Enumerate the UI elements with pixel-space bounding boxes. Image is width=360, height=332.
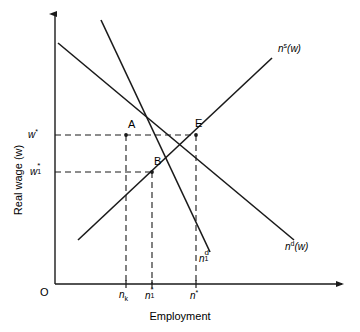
y-tick-label-w-1-star: w*1 [30, 165, 42, 177]
curve-labor-supply [78, 58, 272, 240]
y-tick-sup-w-star: * [35, 128, 38, 135]
curve-label-labor-demand: nd(w) [285, 240, 308, 252]
curve-labor-demand-shifted [101, 20, 210, 252]
point-marker-e [194, 133, 198, 137]
x-tick-label-n-k: nk [119, 289, 128, 302]
curve-label-demand-tail: (w) [294, 241, 308, 252]
y-tick-label-w-star: w* [28, 128, 38, 140]
point-marker-a [124, 133, 128, 137]
curve-label-shifted-stack: d1 [205, 252, 210, 262]
x-tick-sub-n-1-star: 1 [151, 292, 155, 299]
point-label-e: E [195, 117, 202, 129]
x-tick-label-n-star: n* [190, 289, 198, 301]
point-label-b: B [154, 155, 161, 167]
x-tick-label-n-1-star: n*1 [145, 289, 156, 301]
curve-label-labor-demand-shifted: nd1 [199, 252, 210, 264]
y-tick-stack-w-1-star: *1 [37, 165, 42, 175]
x-tick-stack-n-1-star: *1 [151, 289, 156, 299]
curve-label-supply-tail: (w) [287, 43, 301, 54]
x-tick-sup-n-star: * [196, 289, 199, 296]
y-axis-title: Real wage (w) [12, 110, 24, 250]
y-tick-base-w-1-star: w [30, 166, 37, 177]
labor-market-diagram [0, 0, 360, 332]
x-tick-sub-n-k: k [125, 295, 129, 302]
origin-label: O [40, 286, 49, 298]
point-marker-b [150, 170, 154, 174]
curve-label-shifted-sub: 1 [205, 255, 209, 262]
x-axis-title: Employment [0, 310, 360, 322]
y-tick-sub-w-1-star: 1 [37, 168, 41, 175]
curve-label-labor-supply: ns(w) [278, 42, 301, 54]
diagram-canvas: Employment Real wage (w) O w* w*1 nk n*1… [0, 0, 360, 332]
point-label-a: A [128, 118, 135, 130]
curve-labor-demand [58, 43, 294, 240]
